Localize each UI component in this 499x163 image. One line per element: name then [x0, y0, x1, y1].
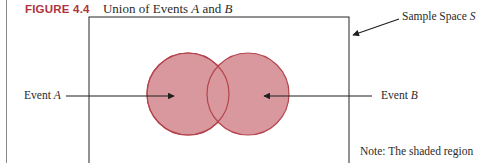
label-text: Sample Space	[402, 10, 470, 22]
label-text: Event	[381, 89, 411, 101]
sample-space-arrow	[353, 19, 399, 35]
label-var: A	[54, 89, 61, 101]
label-var: B	[411, 89, 418, 101]
label-var: S	[470, 10, 476, 22]
event-b-label: Event B	[381, 89, 418, 101]
event-b-circle	[207, 53, 289, 135]
event-a-label: Event A	[24, 89, 61, 101]
sample-space-label: Sample Space S	[402, 10, 475, 22]
venn-diagram	[0, 0, 499, 163]
label-text: Event	[24, 89, 54, 101]
note-text: Note: The shaded region	[360, 145, 473, 157]
